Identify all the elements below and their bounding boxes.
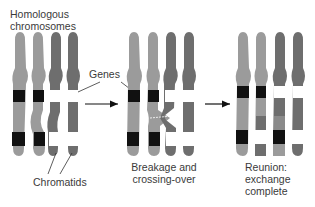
stage1-light-chromosome xyxy=(12,32,46,156)
chromatid-pointer xyxy=(48,153,56,174)
genes-label: Genes xyxy=(89,68,120,80)
chromatid-pointer xyxy=(60,153,72,174)
stage3-light-chromosome xyxy=(236,32,268,156)
stage2-light-chromosome xyxy=(127,32,170,156)
breakage-label: Breakage and crossing-over xyxy=(128,161,200,185)
genes-pointer xyxy=(78,82,100,92)
stage3-dark-chromosome xyxy=(273,32,305,156)
chromatids-label: Chromatids xyxy=(33,176,87,188)
reunion-label: Reunion: exchange complete xyxy=(245,161,291,197)
stage1-dark-chromosome xyxy=(47,32,80,156)
homologous-label: Homologous chromosomes xyxy=(10,8,76,32)
